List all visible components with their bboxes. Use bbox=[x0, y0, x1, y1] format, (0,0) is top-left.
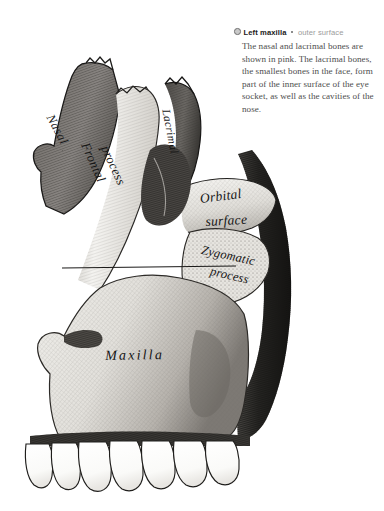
square-separator-icon bbox=[291, 31, 293, 33]
tooth bbox=[78, 442, 111, 491]
caption-title: Left maxilla bbox=[244, 27, 287, 38]
tooth bbox=[174, 441, 208, 487]
filled-circle-bullet-icon bbox=[234, 28, 241, 35]
nasal-bone-region bbox=[33, 57, 120, 214]
tooth bbox=[25, 444, 52, 488]
caption-heading: Left maxilla outer surface bbox=[234, 27, 380, 38]
tooth bbox=[110, 441, 144, 491]
teeth-row bbox=[25, 432, 250, 492]
caption-block: Left maxilla outer surface The nasal and… bbox=[228, 27, 380, 116]
page-root: Nasal Frontal process Lacrimal Orbital s… bbox=[0, 0, 384, 511]
caption-subtitle: outer surface bbox=[298, 27, 344, 38]
caption-body-text: The nasal and lacrimal bones are shown i… bbox=[242, 40, 380, 116]
tooth bbox=[51, 443, 80, 490]
maxilla-body-region bbox=[38, 275, 249, 438]
tooth bbox=[206, 441, 240, 485]
tooth bbox=[142, 441, 176, 489]
